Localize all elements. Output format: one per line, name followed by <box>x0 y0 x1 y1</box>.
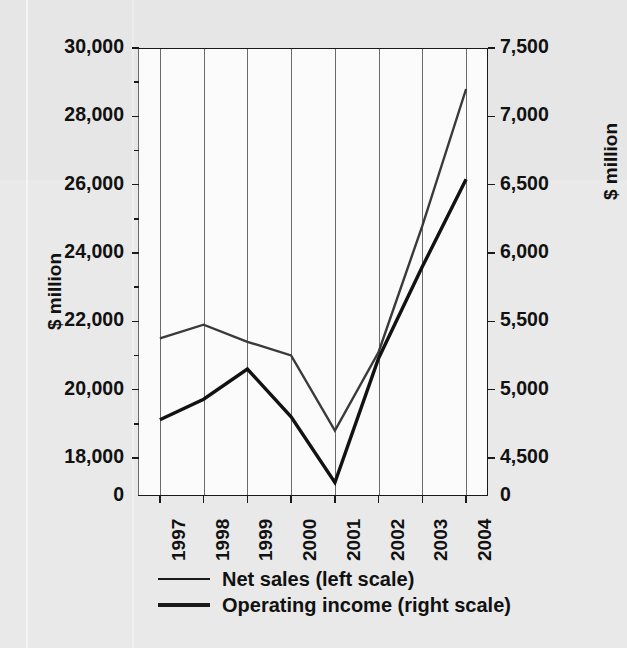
right-axis-tick <box>488 389 495 391</box>
right-axis-tick <box>488 184 495 186</box>
x-axis-tick <box>290 496 292 503</box>
left-axis-minor-tick <box>134 150 139 152</box>
gridline-vertical <box>204 49 205 495</box>
gridline-vertical <box>466 49 467 495</box>
x-axis-label-1998: 1998 <box>212 519 234 561</box>
gridline-vertical <box>379 49 380 495</box>
left-axis-tick <box>132 47 139 49</box>
x-axis-label-2001: 2001 <box>343 519 365 561</box>
left-axis-tick <box>132 252 139 254</box>
left-axis-tick-label: 26,000 <box>64 172 124 195</box>
right-axis-tick-label: 5,500 <box>500 308 549 331</box>
right-axis-tick <box>488 457 495 459</box>
right-axis-tick-label: 6,000 <box>500 240 549 263</box>
left-axis-minor-tick <box>134 355 139 357</box>
right-axis-title: $ million <box>600 123 622 200</box>
right-axis-tick-label: 7,500 <box>500 35 549 58</box>
x-axis-label-2004: 2004 <box>474 519 496 561</box>
left-axis-minor-tick <box>134 286 139 288</box>
gridline-vertical <box>422 49 423 495</box>
right-axis-tick-label: 6,500 <box>500 172 549 195</box>
left-axis-minor-tick <box>134 218 139 220</box>
left-axis-tick <box>132 389 139 391</box>
legend: Net sales (left scale)Operating income (… <box>158 566 558 618</box>
right-axis-tick <box>488 47 495 49</box>
left-axis-tick-label: 20,000 <box>64 377 124 400</box>
x-axis-tick <box>203 496 205 503</box>
x-axis-tick <box>465 496 467 503</box>
left-axis-minor-tick <box>134 423 139 425</box>
x-axis-tick <box>334 496 336 503</box>
x-axis-tick <box>422 496 424 503</box>
left-axis-tick <box>132 184 139 186</box>
left-axis-tick <box>132 457 139 459</box>
left-axis-tick-label: 28,000 <box>64 103 124 126</box>
legend-item[interactable]: Operating income (right scale) <box>158 592 558 618</box>
x-axis-tick <box>378 496 380 503</box>
legend-item[interactable]: Net sales (left scale) <box>158 566 558 592</box>
legend-item-label: Net sales (left scale) <box>222 568 414 591</box>
left-axis-tick-label: 0 <box>113 483 124 506</box>
left-axis-minor-tick <box>134 81 139 83</box>
x-axis-label-2003: 2003 <box>430 519 452 561</box>
x-axis-label-2000: 2000 <box>299 519 321 561</box>
x-axis-tick <box>159 496 161 503</box>
right-axis-tick <box>488 252 495 254</box>
left-axis-title: $ million <box>44 253 66 330</box>
plot-area <box>138 48 488 496</box>
left-axis-tick <box>132 321 139 323</box>
gridline-vertical <box>160 49 161 495</box>
x-axis-label-1999: 1999 <box>255 519 277 561</box>
gridline-vertical <box>291 49 292 495</box>
gridline-vertical <box>247 49 248 495</box>
x-axis-label-2002: 2002 <box>387 519 409 561</box>
left-axis-tick-label: 22,000 <box>64 308 124 331</box>
chart-figure: $ million $ million 018,00020,00022,0002… <box>0 0 627 648</box>
right-axis-tick-label: 4,500 <box>500 445 549 468</box>
x-axis-tick <box>247 496 249 503</box>
x-axis-label-1997: 1997 <box>168 519 190 561</box>
left-axis-tick <box>132 116 139 118</box>
left-axis-tick-label: 18,000 <box>64 445 124 468</box>
legend-line-swatch <box>158 578 210 581</box>
legend-item-label: Operating income (right scale) <box>222 594 511 617</box>
right-axis-tick-label: 0 <box>500 483 511 506</box>
right-axis-tick-label: 7,000 <box>500 103 549 126</box>
left-axis-tick-label: 30,000 <box>64 35 124 58</box>
right-axis-tick <box>488 116 495 118</box>
left-axis-tick-label: 24,000 <box>64 240 124 263</box>
right-axis-tick-label: 5,000 <box>500 377 549 400</box>
gridline-vertical <box>335 49 336 495</box>
right-axis-tick <box>488 321 495 323</box>
legend-line-swatch <box>158 603 210 607</box>
